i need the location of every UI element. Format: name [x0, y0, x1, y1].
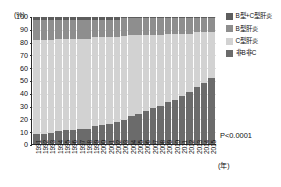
legend-swatch: [226, 38, 233, 45]
legend-item-label: C型肝炎: [236, 38, 259, 44]
bar-column: [99, 17, 105, 144]
bar-segment: [84, 39, 90, 129]
bar-segment: [114, 20, 120, 38]
bar-column: [157, 17, 163, 144]
bar-column: [48, 17, 54, 144]
x-tick-slot: 2002: [113, 146, 119, 187]
bar-segment: [194, 18, 200, 32]
bar-column: [150, 17, 156, 144]
bar-segment: [92, 20, 98, 38]
x-tick-slot: 2003: [120, 146, 126, 187]
bar-segment: [208, 32, 214, 78]
bar-segment: [208, 18, 214, 32]
x-tick-slot: 2007: [149, 146, 155, 187]
x-tick-slot: 1995: [62, 146, 68, 187]
y-tick-label: 30: [20, 103, 28, 110]
y-tick-label: 20: [20, 116, 28, 123]
bar-segment: [77, 39, 83, 129]
bar-segment: [165, 34, 171, 103]
bar-segment: [135, 18, 141, 35]
y-tick-label: 10: [20, 129, 28, 136]
legend-item-label: B型+C型肝炎: [236, 13, 273, 19]
legend-swatch: [226, 25, 233, 32]
x-tick-slot: 2009: [164, 146, 170, 187]
bar-segment: [55, 39, 61, 132]
bar-segment: [114, 37, 120, 122]
bar-segment: [33, 20, 39, 40]
bar-segment: [128, 18, 134, 35]
legend-swatch: [226, 50, 233, 57]
bar-segment: [194, 32, 200, 87]
bar-segment: [201, 18, 207, 32]
bar-segment: [135, 35, 141, 114]
bar-segment: [201, 32, 207, 83]
bar-column: [77, 17, 83, 144]
x-tick-label: 2015: [211, 140, 218, 154]
bar-column: [84, 17, 90, 144]
legend-item[interactable]: 非B非C: [226, 49, 281, 58]
x-tick-slot: 1996: [69, 146, 75, 187]
bar-segment: [92, 37, 98, 126]
bar-segment: [99, 37, 105, 125]
bar-segment: [157, 106, 163, 144]
bar-series-group: [32, 17, 216, 144]
bar-column: [194, 17, 200, 144]
bar-segment: [150, 18, 156, 35]
y-axis: (%) 0102030405060708090100: [0, 10, 31, 152]
bar-segment: [41, 20, 47, 40]
bar-column: [135, 17, 141, 144]
x-tick-slot: 1999: [91, 146, 97, 187]
bar-segment: [48, 40, 54, 133]
bar-segment: [179, 34, 185, 96]
bar-segment: [106, 37, 112, 123]
x-tick-slot: 1994: [54, 146, 60, 187]
x-tick-slot: 2015: [208, 146, 214, 187]
x-axis-unit-label: (年): [218, 160, 230, 170]
bar-segment: [157, 18, 163, 35]
bar-column: [179, 17, 185, 144]
x-tick-slot: 2010: [171, 146, 177, 187]
x-axis: 1991199219931994199519961997199819992000…: [31, 146, 216, 187]
bar-segment: [186, 18, 192, 33]
bar-segment: [70, 39, 76, 130]
bar-segment: [33, 40, 39, 134]
bar-segment: [121, 18, 127, 36]
bar-segment: [186, 34, 192, 92]
bar-segment: [186, 92, 192, 144]
y-tick-label: 60: [20, 65, 28, 72]
bar-segment: [77, 20, 83, 39]
legend-item[interactable]: B型肝炎: [226, 24, 281, 33]
bar-column: [201, 17, 207, 144]
x-tick-slot: 2008: [157, 146, 163, 187]
legend: B型+C型肝炎B型肝炎C型肝炎非B非C: [226, 12, 281, 62]
x-tick-slot: 2012: [186, 146, 192, 187]
x-tick-slot: 2011: [179, 146, 185, 187]
bar-segment: [172, 100, 178, 144]
y-tick-label: 70: [20, 52, 28, 59]
legend-item[interactable]: C型肝炎: [226, 37, 281, 46]
y-tick-label: 90: [20, 26, 28, 33]
y-tick-label: 50: [20, 77, 28, 84]
bar-segment: [157, 35, 163, 106]
pvalue-annotation: P<0.0001: [220, 131, 252, 140]
x-tick-slot: 2014: [201, 146, 207, 187]
x-tick-slot: 1993: [47, 146, 53, 187]
bar-segment: [150, 108, 156, 144]
bar-column: [55, 17, 61, 144]
bar-segment: [165, 18, 171, 33]
bar-segment: [128, 35, 134, 116]
bar-column: [41, 17, 47, 144]
legend-swatch: [226, 13, 233, 20]
x-tick-slot: 1998: [84, 146, 90, 187]
chart-container: (%) 0102030405060708090100 1991199219931…: [0, 0, 281, 187]
bar-segment: [55, 20, 61, 39]
bar-segment: [48, 20, 54, 40]
bar-column: [172, 17, 178, 144]
bar-segment: [172, 34, 178, 100]
bar-column: [165, 17, 171, 144]
bar-segment: [150, 35, 156, 109]
legend-item[interactable]: B型+C型肝炎: [226, 12, 281, 21]
y-tick-label: 80: [20, 39, 28, 46]
bar-segment: [208, 78, 214, 144]
bar-segment: [194, 87, 200, 144]
